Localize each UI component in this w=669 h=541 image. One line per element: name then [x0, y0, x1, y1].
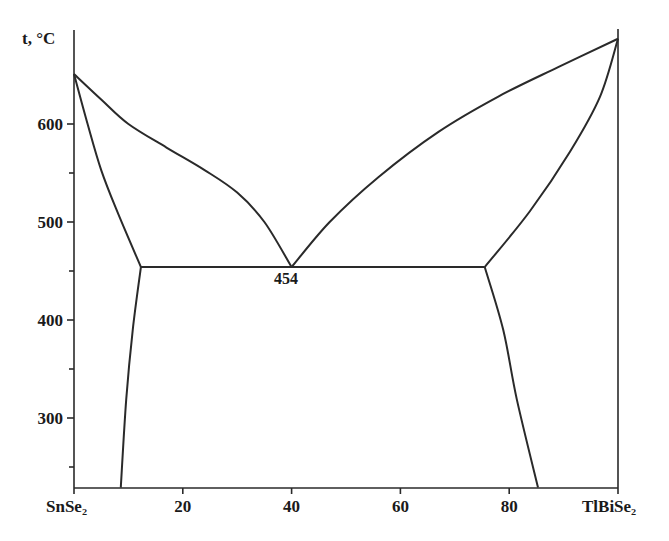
- x-tick-label: 20: [174, 497, 191, 516]
- phase-diagram: t, °C SnSe₂ TlBiSe₂ 454 3004005006002040…: [0, 0, 669, 541]
- y-tick-label: 300: [38, 409, 64, 428]
- y-tick-label: 400: [38, 311, 64, 330]
- y-tick-label: 600: [38, 115, 64, 134]
- x-tick-label: 40: [283, 497, 300, 516]
- y-axis-title: t, °C: [22, 29, 55, 48]
- y-tick-label: 500: [38, 213, 64, 232]
- axes: [67, 29, 618, 494]
- liquidus-left-curve: [74, 74, 292, 267]
- x-tick-label: 60: [392, 497, 409, 516]
- eutectic-temperature-label: 454: [274, 270, 298, 287]
- axis-labels: t, °C SnSe₂ TlBiSe₂ 454: [22, 29, 636, 516]
- x-tick-label: 80: [501, 497, 518, 516]
- solidus-left-curve: [74, 74, 141, 267]
- solidus-right-curve: [485, 39, 618, 267]
- solvus-right-curve: [485, 267, 538, 488]
- tick-labels: 30040050060020406080: [38, 115, 518, 516]
- x-right-component-label: TlBiSe₂: [582, 497, 636, 516]
- phase-curves: [74, 39, 618, 488]
- solvus-left-curve: [121, 267, 141, 488]
- x-left-component-label: SnSe₂: [46, 497, 87, 516]
